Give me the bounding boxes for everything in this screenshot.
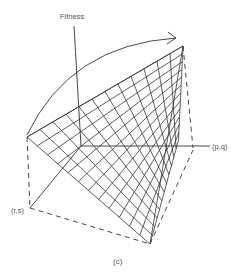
rs-label: (r,s) <box>11 206 24 215</box>
mesh-line <box>144 69 171 166</box>
mesh-line <box>118 84 167 183</box>
fitness-axis <box>74 26 81 146</box>
mesh-line <box>40 129 152 235</box>
mesh-line <box>92 99 162 201</box>
mesh-line <box>105 92 164 193</box>
fitness-label: Fitness <box>60 12 84 21</box>
pq-label: (p,q) <box>212 142 228 151</box>
mesh-edge <box>27 137 150 244</box>
fitness-landscape-diagram: Fitness (p,q) (r,s) (c) <box>0 0 246 277</box>
mesh-line <box>53 122 155 227</box>
caption: (c) <box>113 257 123 266</box>
rotation-arrow <box>27 32 176 135</box>
dashed-outline <box>27 46 193 244</box>
mesh-edge <box>150 46 183 244</box>
